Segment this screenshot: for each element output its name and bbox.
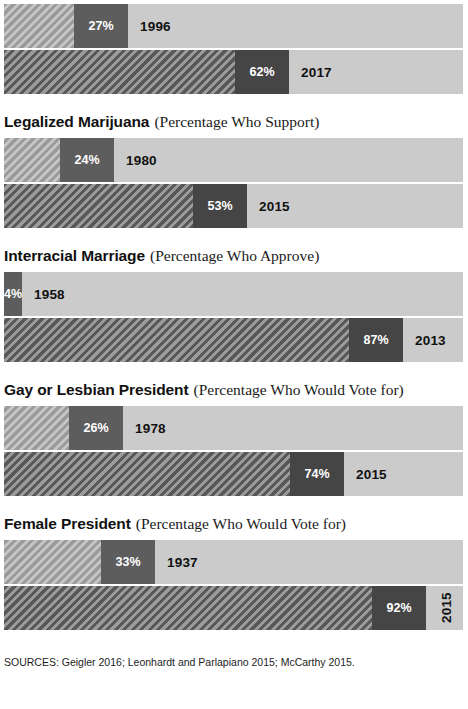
chart-bar: 24%1980	[4, 138, 463, 182]
bar-percentage-label: 24%	[60, 138, 114, 182]
chart-bar: 27%1996	[4, 4, 463, 48]
bar-percentage-label: 74%	[290, 452, 344, 496]
bar-fill	[4, 318, 349, 362]
group-title-main: Female President	[4, 515, 131, 532]
bar-fill	[4, 138, 60, 182]
bar-fill	[4, 452, 290, 496]
chart-bar: 4%1958	[4, 272, 463, 316]
bar-fill	[4, 540, 101, 584]
group-title-subtitle: (Percentage Who Would Vote for)	[194, 381, 404, 398]
bar-percentage-label: 26%	[69, 406, 123, 450]
bar-fill	[4, 184, 193, 228]
bar-percentage-label: 62%	[235, 50, 289, 94]
bar-year-label: 2017	[301, 50, 332, 94]
group-title: Interracial Marriage(Percentage Who Appr…	[4, 246, 319, 266]
bar-pair: 4%195887%2013	[4, 272, 463, 362]
bar-fill	[4, 586, 372, 630]
chart-bar: 87%2013	[4, 318, 463, 362]
bar-year-label: 1978	[135, 406, 166, 450]
chart-bar: 26%1978	[4, 406, 463, 450]
bar-pair: 26%197874%2015	[4, 406, 463, 496]
group-title-subtitle: (Percentage Who Support)	[154, 113, 319, 130]
bar-pair: 24%198053%2015	[4, 138, 463, 228]
bar-percentage-label: 4%	[4, 272, 22, 316]
bar-percentage-label: 87%	[349, 318, 403, 362]
bar-year-label: 1958	[34, 272, 65, 316]
bar-percentage-label: 92%	[372, 586, 426, 630]
group-title-main: Legalized Marijuana	[4, 113, 149, 130]
chart-bar: 92%2015	[4, 586, 463, 630]
group-title-main: Interracial Marriage	[4, 247, 145, 264]
bar-year-label: 2015	[259, 184, 290, 228]
infographic-figure: Same-Sex Marriage(Percentage Who Favor)2…	[0, 0, 468, 709]
group-title-subtitle: (Percentage Who Approve)	[150, 247, 319, 264]
bar-year-label: 1980	[126, 138, 157, 182]
chart-bar: 62%2017	[4, 50, 463, 94]
group-title-main: Gay or Lesbian President	[4, 381, 189, 398]
bar-fill	[4, 4, 74, 48]
bar-year-label: 1996	[140, 4, 171, 48]
bar-percentage-label: 27%	[74, 4, 128, 48]
bar-year-label: 2015	[430, 586, 463, 630]
bar-year-label: 1937	[167, 540, 198, 584]
bar-percentage-label: 53%	[193, 184, 247, 228]
bar-pair: 27%199662%2017	[4, 4, 463, 94]
sources-note: SOURCES: Geigler 2016; Leonhardt and Par…	[4, 656, 355, 668]
chart-bar: 33%1937	[4, 540, 463, 584]
bar-pair: 33%193792%2015	[4, 540, 463, 630]
bar-year-label: 2015	[356, 452, 387, 496]
bar-percentage-label: 33%	[101, 540, 155, 584]
chart-bar: 74%2015	[4, 452, 463, 496]
group-title: Legalized Marijuana(Percentage Who Suppo…	[4, 112, 319, 132]
chart-bar: 53%2015	[4, 184, 463, 228]
bar-year-label: 2013	[415, 318, 446, 362]
bar-fill	[4, 406, 69, 450]
group-title-subtitle: (Percentage Who Would Vote for)	[136, 515, 346, 532]
group-title: Gay or Lesbian President(Percentage Who …	[4, 380, 404, 400]
group-title: Female President(Percentage Who Would Vo…	[4, 514, 346, 534]
bar-fill	[4, 50, 235, 94]
